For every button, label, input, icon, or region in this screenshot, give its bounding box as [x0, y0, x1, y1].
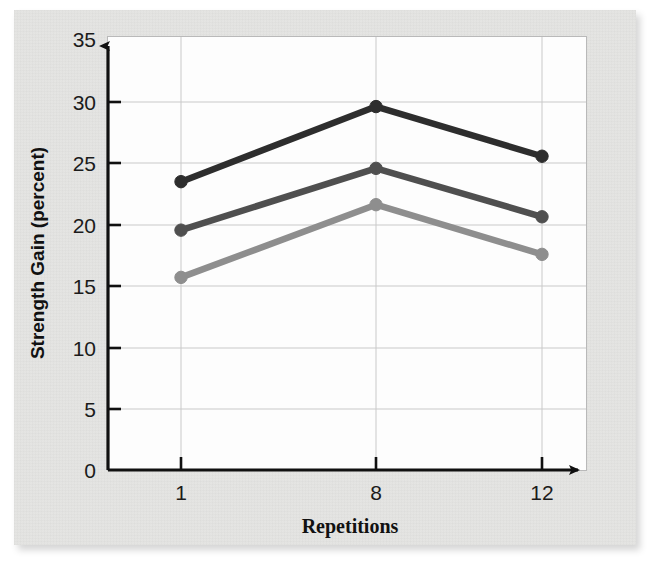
y-tick-label: 15	[73, 275, 96, 298]
data-point	[370, 198, 382, 210]
x-axis-title: Repetitions	[302, 515, 399, 538]
data-point	[370, 162, 382, 174]
y-tick-label: 5	[84, 398, 96, 421]
chart-page: 35 30 25 20 15 10 5 0 1 8 12 Repetitions…	[0, 0, 650, 562]
axes	[108, 46, 578, 470]
x-tick-label: 1	[175, 481, 187, 504]
y-tick-label: 10	[73, 337, 96, 360]
y-tick-label: 25	[73, 152, 96, 175]
y-axis-title: Strength Gain (percent)	[27, 147, 48, 359]
x-tick-labels: 1 8 12	[175, 481, 554, 504]
data-point	[536, 248, 548, 260]
y-tick-label: 30	[73, 91, 96, 114]
line-chart: 35 30 25 20 15 10 5 0 1 8 12 Repetitions…	[0, 0, 650, 562]
y-tick-label: 20	[73, 214, 96, 237]
x-tick-label: 8	[370, 481, 382, 504]
x-tick-label: 12	[530, 481, 553, 504]
y-tick-label: 0	[84, 459, 96, 482]
data-point	[370, 100, 382, 112]
series-line	[181, 168, 542, 230]
y-tick-label: 35	[73, 28, 96, 51]
data-point	[536, 211, 548, 223]
x-tick-marks	[181, 457, 542, 470]
data-series-layer	[175, 100, 548, 283]
data-point	[175, 224, 187, 236]
data-point	[175, 271, 187, 283]
y-tick-marks	[108, 102, 121, 409]
y-tick-labels: 35 30 25 20 15 10 5 0	[73, 28, 96, 482]
data-point	[536, 150, 548, 162]
data-point	[175, 175, 187, 187]
